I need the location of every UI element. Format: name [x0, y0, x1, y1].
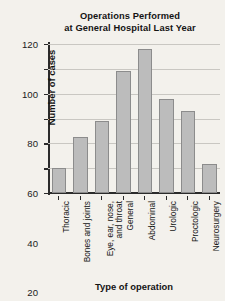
x-tick-mark	[80, 196, 81, 200]
x-tick-mark	[101, 196, 102, 200]
plot-area: 020406080100120 Number of cases	[48, 44, 220, 193]
x-axis-title: Type of operation	[48, 281, 220, 292]
x-tick-mark	[209, 196, 210, 200]
bar	[181, 111, 196, 193]
y-tick-label-60: 60	[27, 188, 38, 199]
chart-title-line-1: Operations Performed	[40, 11, 220, 23]
x-tick-mark	[187, 196, 188, 200]
x-tick-mark	[123, 196, 124, 200]
y-tick-mark-0: 0	[44, 193, 48, 194]
x-axis-category-label-line: Neurosurgery	[212, 201, 221, 251]
y-tick-label-20: 20	[27, 287, 38, 298]
bar	[159, 99, 174, 193]
bar-chart: Operations Performed at General Hospital…	[0, 0, 225, 301]
bar	[202, 164, 217, 193]
y-tick-label-120: 120	[22, 39, 38, 50]
bar	[138, 49, 153, 193]
x-axis-category-label-line: Urologic	[169, 201, 178, 231]
bar	[73, 137, 88, 193]
y-tick-label-100: 100	[22, 88, 38, 99]
y-axis-title: Number of cases	[46, 28, 57, 148]
x-axis-category-label-line: General	[126, 201, 135, 231]
bar	[116, 71, 131, 193]
x-axis-category-label-line: Thoracic	[62, 201, 71, 233]
y-tick-label-40: 40	[27, 237, 38, 248]
x-axis-category-label-line: Abdominal	[148, 201, 157, 240]
bar-series	[48, 44, 220, 193]
x-tick-mark	[144, 196, 145, 200]
x-axis-category-label-line: Proctologic	[191, 201, 200, 242]
bar	[95, 121, 110, 193]
chart-title: Operations Performed at General Hospital…	[40, 11, 220, 34]
x-axis-category-labels: ThoracicBones and jointsEye, ear, nose,a…	[48, 196, 220, 278]
x-axis-category-label-line: and throat	[116, 201, 125, 256]
x-axis-category-label-line: Bones and joints	[83, 201, 92, 262]
chart-title-line-2: at General Hospital Last Year	[40, 23, 220, 35]
bar	[52, 168, 67, 193]
x-tick-mark	[166, 196, 167, 200]
x-tick-mark	[58, 196, 59, 200]
y-tick-label-80: 80	[27, 138, 38, 149]
